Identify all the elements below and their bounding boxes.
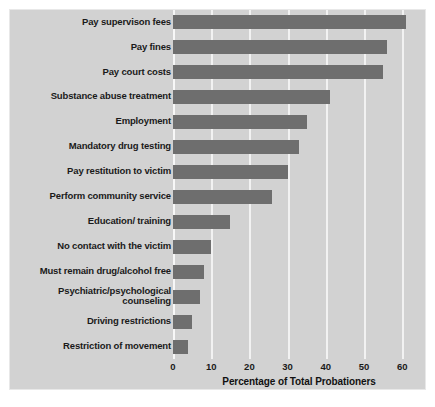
category-label: Education/ training xyxy=(21,216,171,227)
bar-row: Education/ training xyxy=(10,209,427,234)
bar xyxy=(173,115,307,129)
category-label: Pay restitution to victim xyxy=(21,166,171,177)
bar-row: Perform community service xyxy=(10,185,427,210)
category-label: Restriction of movement xyxy=(21,341,171,352)
bar-row: Driving restrictions xyxy=(10,309,427,334)
bar xyxy=(173,340,188,354)
bar-row: Mandatory drug testing xyxy=(10,135,427,160)
plot-panel: Pay supervison feesPay finesPay court co… xyxy=(9,9,426,390)
category-label: Pay fines xyxy=(21,42,171,53)
category-label: Driving restrictions xyxy=(21,316,171,327)
category-label: Mandatory drug testing xyxy=(21,141,171,152)
x-tick-label: 30 xyxy=(282,361,293,372)
bar xyxy=(173,165,288,179)
bar-row: Pay restitution to victim xyxy=(10,160,427,185)
bar-row: Substance abuse treatment xyxy=(10,85,427,110)
x-tick-label: 20 xyxy=(244,361,255,372)
bar-row: Employment xyxy=(10,110,427,135)
x-axis: 0102030405060 Percentage of Total Probat… xyxy=(10,359,427,391)
bar-rows: Pay supervison feesPay finesPay court co… xyxy=(10,10,427,359)
bar xyxy=(173,65,383,79)
x-tick-label: 50 xyxy=(359,361,370,372)
x-tick-label: 10 xyxy=(206,361,217,372)
x-tick-label: 60 xyxy=(397,361,408,372)
bar-row: Pay supervison fees xyxy=(10,10,427,35)
category-label: No contact with the victim xyxy=(21,241,171,252)
bar xyxy=(173,140,299,154)
bar-row: Must remain drug/alcohol free xyxy=(10,259,427,284)
bar-row: Psychiatric/psychologicalcounseling xyxy=(10,284,427,309)
bar-row: Pay court costs xyxy=(10,60,427,85)
bar xyxy=(173,190,272,204)
bar xyxy=(173,90,330,104)
category-label: Must remain drug/alcohol free xyxy=(21,266,171,277)
bar-row: Pay fines xyxy=(10,35,427,60)
bar xyxy=(173,315,192,329)
bar xyxy=(173,290,200,304)
bar-chart-figure: Pay supervison feesPay finesPay court co… xyxy=(0,0,435,407)
bar xyxy=(173,240,211,254)
bar-row: Restriction of movement xyxy=(10,334,427,359)
x-tick-label: 40 xyxy=(321,361,332,372)
bar xyxy=(173,40,387,54)
bar xyxy=(173,215,230,229)
category-label: Pay court costs xyxy=(21,67,171,78)
x-axis-title: Percentage of Total Probationers xyxy=(173,376,425,387)
category-label: Psychiatric/psychologicalcounseling xyxy=(21,286,171,307)
bar xyxy=(173,15,406,29)
category-label: Pay supervison fees xyxy=(21,17,171,28)
bar-row: No contact with the victim xyxy=(10,234,427,259)
category-label: Substance abuse treatment xyxy=(21,91,171,102)
x-tick-label: 0 xyxy=(170,361,175,372)
category-label: Employment xyxy=(21,116,171,127)
category-label: Perform community service xyxy=(21,191,171,202)
bar xyxy=(173,265,204,279)
